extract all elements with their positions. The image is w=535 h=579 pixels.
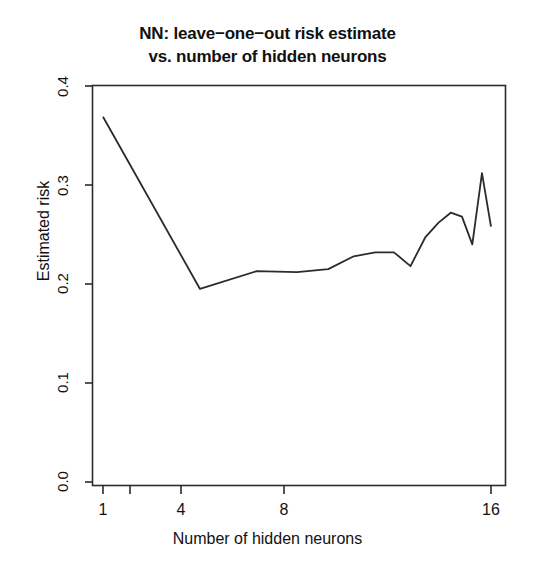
x-axis-ticks (103, 486, 491, 494)
plot-frame (93, 86, 506, 486)
chart-figure: NN: leave−one−out risk estimate vs. numb… (0, 0, 535, 579)
risk-line-series (103, 117, 491, 289)
chart-canvas (0, 0, 535, 579)
y-axis-ticks (85, 86, 92, 482)
